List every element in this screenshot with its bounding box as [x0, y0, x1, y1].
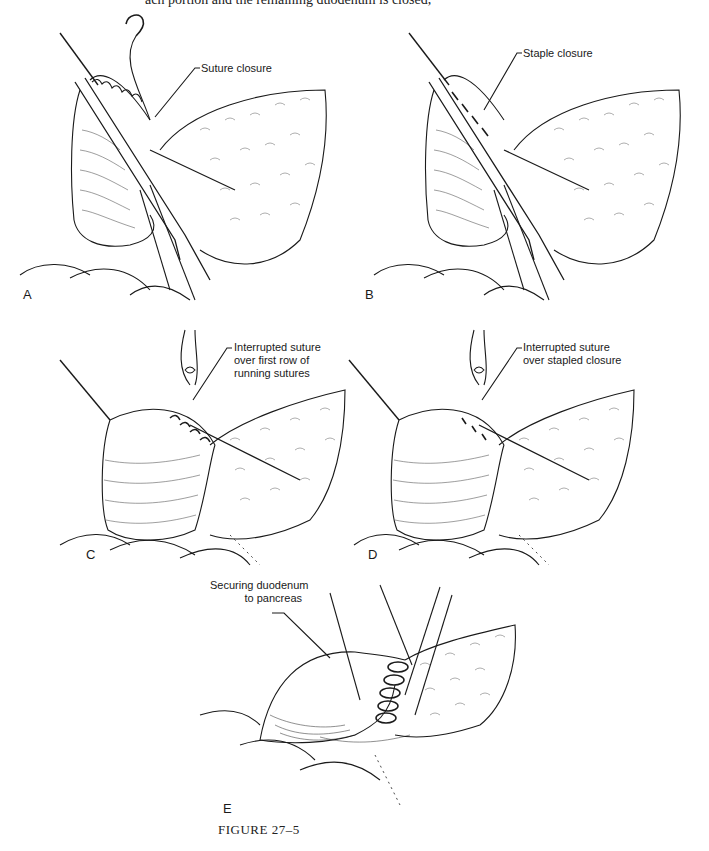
callout-securing-duodenum: Securing duodenum to pancreas: [210, 579, 296, 605]
callout-suture-closure: Suture closure: [201, 62, 272, 75]
callout-line: Securing duodenum: [210, 579, 296, 592]
callout-interrupted-suture-running: Interrupted suture over first row of run…: [234, 341, 321, 380]
panel-d-illustration: Interrupted suture over stapled closure …: [354, 330, 709, 570]
panel-label-a: A: [23, 287, 32, 302]
panel-a-drawing: [0, 0, 354, 300]
callout-line: Interrupted suture: [234, 341, 321, 354]
callout-line: running sutures: [234, 367, 321, 380]
callout-interrupted-suture-stapled: Interrupted suture over stapled closure: [523, 341, 621, 367]
callout-line: Interrupted suture: [523, 341, 621, 354]
panel-label-e: E: [223, 801, 232, 816]
figure-caption: FIGURE 27–5: [218, 822, 300, 838]
panel-b-drawing: [354, 0, 709, 300]
panel-b-illustration: Staple closure B: [354, 0, 709, 300]
panel-e-drawing: [180, 575, 520, 815]
panel-label-b: B: [365, 287, 374, 302]
callout-line: to pancreas: [210, 592, 302, 605]
panel-e-illustration: Securing duodenum to pancreas E: [180, 575, 520, 815]
callout-staple-closure: Staple closure: [523, 47, 593, 60]
callout-line: over first row of: [234, 354, 321, 367]
callout-line: over stapled closure: [523, 354, 621, 367]
panel-c-illustration: Interrupted suture over first row of run…: [0, 330, 354, 570]
panel-a-illustration: Suture closure A: [0, 0, 354, 300]
panel-label-c: C: [86, 547, 95, 562]
panel-label-d: D: [368, 547, 377, 562]
